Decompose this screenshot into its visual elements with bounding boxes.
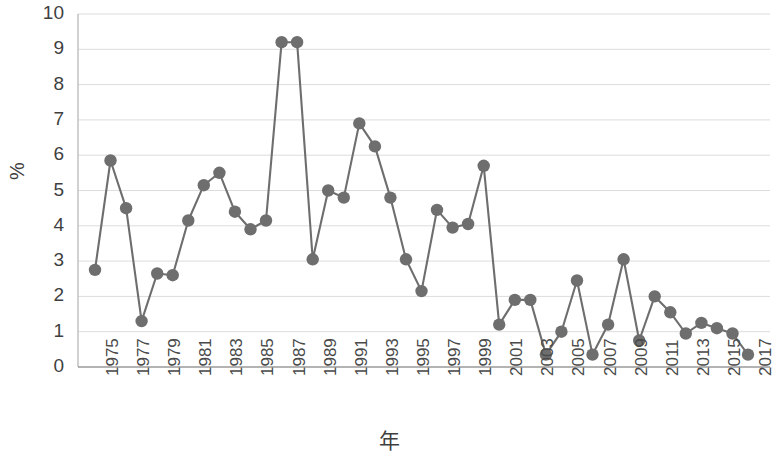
x-tick-label: 1979 <box>165 338 185 376</box>
data-point <box>104 154 116 166</box>
x-tick-label: 1987 <box>290 338 310 376</box>
line-chart-plot <box>0 0 778 455</box>
data-point <box>213 167 225 179</box>
x-tick-label: 1975 <box>103 338 123 376</box>
data-point <box>524 294 536 306</box>
x-tick-label: 1981 <box>196 338 216 376</box>
data-point <box>664 306 676 318</box>
x-tick-label: 1995 <box>414 338 434 376</box>
data-point <box>167 269 179 281</box>
data-point <box>571 274 583 286</box>
data-point <box>322 184 334 196</box>
x-tick-label: 1997 <box>445 338 465 376</box>
data-line <box>95 42 748 354</box>
data-point <box>244 223 256 235</box>
data-point <box>151 267 163 279</box>
data-point <box>291 36 303 48</box>
x-tick-label: 2007 <box>601 338 621 376</box>
y-tick-label: 4 <box>30 214 64 236</box>
data-point <box>400 253 412 265</box>
data-point <box>509 294 521 306</box>
data-point <box>353 117 365 129</box>
x-tick-label: 2003 <box>538 338 558 376</box>
x-axis-label: 年 <box>0 424 778 454</box>
data-point <box>120 202 132 214</box>
data-point <box>198 179 210 191</box>
x-tick-label: 2001 <box>507 338 527 376</box>
gridlines <box>78 14 770 332</box>
data-point <box>135 315 147 327</box>
x-tick-label: 1991 <box>352 338 372 376</box>
y-tick-label: 8 <box>30 73 64 95</box>
data-point <box>617 253 629 265</box>
data-point <box>478 160 490 172</box>
data-point <box>415 285 427 297</box>
y-tick-label: 0 <box>30 355 64 377</box>
data-point <box>462 218 474 230</box>
x-tick-label: 2005 <box>569 338 589 376</box>
data-point <box>602 318 614 330</box>
data-point <box>431 204 443 216</box>
x-tick-label: 2013 <box>694 338 714 376</box>
x-tick-label: 2011 <box>663 339 683 376</box>
data-point <box>555 326 567 338</box>
data-point <box>89 264 101 276</box>
y-tick-label: 1 <box>30 320 64 342</box>
x-tick-label: 1993 <box>383 338 403 376</box>
x-tick-label: 2017 <box>756 338 776 376</box>
y-axis-label: % <box>6 162 29 180</box>
data-point <box>307 253 319 265</box>
x-tick-label: 1977 <box>134 338 154 376</box>
data-point <box>229 206 241 218</box>
data-point <box>369 140 381 152</box>
data-point <box>493 318 505 330</box>
y-tick-label: 9 <box>30 37 64 59</box>
x-tick-label: 1989 <box>321 338 341 376</box>
y-tick-label: 2 <box>30 284 64 306</box>
data-point <box>711 322 723 334</box>
data-point <box>384 191 396 203</box>
data-point <box>260 214 272 226</box>
data-point <box>649 290 661 302</box>
x-tick-label: 1999 <box>476 338 496 376</box>
x-tick-label: 2015 <box>725 338 745 376</box>
y-tick-label: 6 <box>30 143 64 165</box>
data-point <box>680 327 692 339</box>
y-tick-label: 10 <box>30 2 64 24</box>
x-tick-label: 1985 <box>258 338 278 376</box>
chart-container: % 年 012345678910 19751977197919811983198… <box>0 0 778 455</box>
x-tick-label: 2009 <box>632 338 652 376</box>
data-point <box>446 221 458 233</box>
data-point <box>338 191 350 203</box>
x-tick-label: 1983 <box>227 338 247 376</box>
y-tick-label: 7 <box>30 108 64 130</box>
data-point <box>695 317 707 329</box>
data-point <box>182 214 194 226</box>
data-point <box>275 36 287 48</box>
y-tick-label: 5 <box>30 179 64 201</box>
y-tick-label: 3 <box>30 249 64 271</box>
